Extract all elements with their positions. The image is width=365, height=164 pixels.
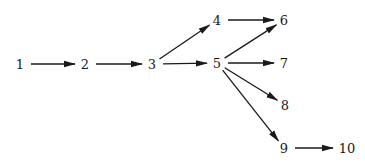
edges-group (31, 20, 333, 148)
arrow-5-to-8 (225, 68, 278, 101)
arrow-5-to-9 (223, 70, 279, 141)
node-6: 6 (280, 13, 288, 28)
node-7: 7 (280, 56, 288, 71)
node-4: 4 (213, 13, 221, 28)
node-1: 1 (16, 57, 24, 72)
node-10: 10 (339, 141, 356, 156)
arrow-5-to-6 (225, 25, 277, 58)
node-9: 9 (280, 141, 288, 156)
nodes-group: 12345678910 (16, 13, 355, 156)
node-2: 2 (81, 57, 89, 72)
directed-graph: 12345678910 (0, 0, 365, 164)
node-3: 3 (148, 57, 156, 72)
arrow-3-to-5 (163, 63, 207, 64)
node-5: 5 (213, 56, 221, 71)
node-8: 8 (281, 98, 289, 113)
arrow-3-to-4 (160, 25, 210, 59)
